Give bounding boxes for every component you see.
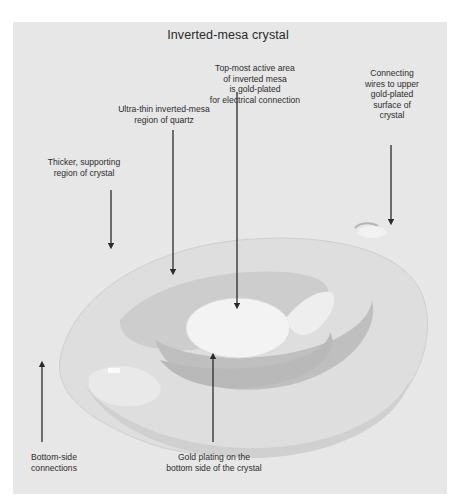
label-line: connections: [22, 463, 86, 474]
label-bottom-connections: Bottom-side connections: [22, 452, 86, 473]
label-ultra-thin-region: Ultra-thin inverted-mesa region of quart…: [104, 104, 224, 125]
label-line: bottom side of the crystal: [164, 463, 264, 474]
label-thicker-region: Thicker, supporting region of crystal: [36, 157, 132, 178]
label-line: region of crystal: [36, 168, 132, 179]
label-line: of inverted mesa: [180, 74, 330, 85]
connecting-wire: [355, 223, 386, 238]
label-line: Thicker, supporting: [36, 157, 132, 168]
label-line: surface of: [352, 100, 432, 111]
label-line: crystal: [352, 110, 432, 121]
label-line: Bottom-side: [22, 452, 86, 463]
label-top-active-area: Top-most active area of inverted mesa is…: [180, 63, 330, 105]
label-line: Connecting: [352, 68, 432, 79]
label-line: wires to upper: [352, 79, 432, 90]
label-line: Top-most active area: [180, 63, 330, 74]
label-line: Gold plating on the: [164, 452, 264, 463]
label-line: is gold-plated: [180, 84, 330, 95]
label-line: region of quartz: [104, 115, 224, 126]
label-connecting-wires: Connecting wires to upper gold-plated su…: [352, 68, 432, 121]
active-area-disc: [186, 298, 290, 358]
label-line: gold-plated: [352, 89, 432, 100]
label-line: Ultra-thin inverted-mesa: [104, 104, 224, 115]
label-gold-plating-bottom: Gold plating on the bottom side of the c…: [164, 452, 264, 473]
